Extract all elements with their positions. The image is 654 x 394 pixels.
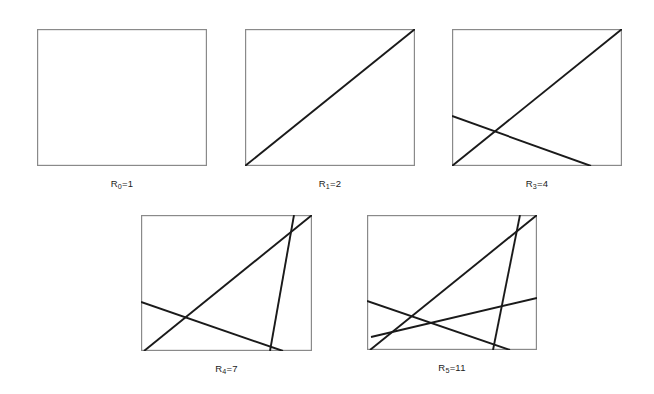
- caption-symbol: R: [526, 178, 533, 189]
- rectangle-border: [38, 30, 207, 166]
- region-rectangle: [141, 215, 312, 351]
- caption-subscript: 5: [445, 366, 449, 375]
- region-rectangle: [245, 29, 415, 166]
- region-svg: [141, 215, 312, 351]
- region-rectangle: [367, 215, 537, 350]
- panel-3: R3=4: [452, 29, 622, 196]
- panel-caption: R3=4: [452, 178, 622, 189]
- region-rectangle: [37, 29, 207, 166]
- region-svg: [452, 29, 622, 166]
- panel-1: R1=2: [245, 29, 415, 196]
- caption-value: =2: [330, 178, 341, 189]
- caption-symbol: R: [111, 178, 118, 189]
- caption-subscript: 4: [222, 367, 226, 376]
- caption-subscript: 1: [326, 182, 330, 191]
- region-svg: [245, 29, 415, 166]
- panel-4: R4=7: [141, 215, 312, 381]
- region-rectangle: [452, 29, 622, 166]
- caption-value: =1: [122, 178, 133, 189]
- caption-value: =11: [450, 362, 466, 373]
- caption-subscript: 3: [533, 182, 537, 191]
- caption-subscript: 0: [118, 182, 122, 191]
- panel-caption: R5=11: [367, 362, 537, 373]
- caption-symbol: R: [319, 178, 326, 189]
- region-svg: [367, 215, 537, 350]
- panel-caption: R4=7: [141, 363, 312, 374]
- figure-root: R0=1R1=2R3=4R4=7R5=11: [0, 0, 654, 394]
- panel-5: R5=11: [367, 215, 537, 380]
- caption-value: =4: [537, 178, 548, 189]
- panel-caption: R1=2: [245, 178, 415, 189]
- region-svg: [37, 29, 207, 166]
- caption-value: =7: [227, 363, 238, 374]
- panel-0: R0=1: [37, 29, 207, 196]
- panel-caption: R0=1: [37, 178, 207, 189]
